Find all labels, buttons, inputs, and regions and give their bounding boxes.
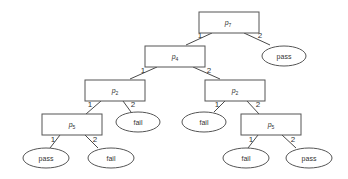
node-n2: p4 bbox=[145, 46, 205, 67]
edge-label-n6-n11: 2 bbox=[93, 135, 98, 144]
node-n11: fail bbox=[88, 148, 134, 168]
node-label: fail bbox=[242, 155, 251, 162]
edge-label-n6-n10: 1 bbox=[51, 135, 56, 144]
node-n10: pass bbox=[23, 148, 69, 168]
node-label: pass bbox=[277, 53, 292, 61]
node-label: fail bbox=[107, 155, 116, 162]
node-n5: p2 bbox=[205, 80, 265, 101]
edge-label-n2-n5: 2 bbox=[207, 66, 212, 75]
node-label: fail bbox=[134, 119, 143, 126]
node-n3: pass bbox=[262, 46, 306, 66]
edge-label-n9-n12: 1 bbox=[249, 135, 254, 144]
node-n12: fail bbox=[223, 148, 269, 168]
node-n4: p2 bbox=[85, 80, 145, 101]
node-label: pass bbox=[39, 155, 54, 163]
node-n1: p7 bbox=[199, 12, 259, 33]
node-n6: p5 bbox=[42, 114, 102, 135]
decision-tree-diagram: 1 2 1 2 1 2 1 2 1 2 1 2 p7 p4 p2 p2 p5 p… bbox=[0, 0, 348, 179]
node-label: pass bbox=[302, 155, 317, 163]
node-n9: p5 bbox=[241, 114, 301, 135]
edge-label-n9-n13: 2 bbox=[291, 135, 296, 144]
node-n7: fail bbox=[116, 112, 160, 132]
node-label: fail bbox=[200, 119, 209, 126]
node-n8: fail bbox=[182, 112, 226, 132]
node-n13: pass bbox=[286, 148, 332, 168]
